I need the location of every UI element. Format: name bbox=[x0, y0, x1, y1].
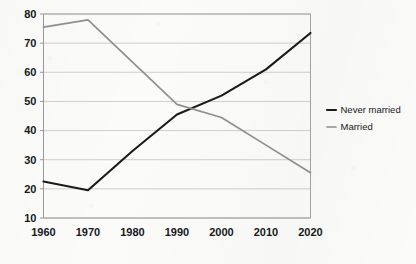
plot-frame bbox=[44, 14, 311, 218]
x-axis-tick-labels: 1960197019801990200020102020 bbox=[31, 226, 322, 238]
data-series-lines bbox=[44, 20, 311, 190]
series-line-never-married bbox=[44, 33, 311, 190]
y-tick-label-10: 10 bbox=[24, 212, 36, 224]
y-tick-label-70: 70 bbox=[24, 37, 36, 49]
y-tick-label-80: 80 bbox=[24, 8, 36, 20]
x-tick-label-1990: 1990 bbox=[165, 226, 189, 238]
y-tick-label-30: 30 bbox=[24, 154, 36, 166]
x-tick-label-2020: 2020 bbox=[298, 226, 322, 238]
legend-label-married[interactable]: Married bbox=[341, 121, 373, 132]
x-tick-label-2000: 2000 bbox=[209, 226, 233, 238]
y-axis-tick-labels: 1020304050607080 bbox=[24, 8, 43, 224]
y-tick-label-60: 60 bbox=[24, 66, 36, 78]
x-tick-label-1970: 1970 bbox=[76, 226, 100, 238]
y-tick-label-50: 50 bbox=[24, 95, 36, 107]
y-tick-label-20: 20 bbox=[24, 183, 36, 195]
chart-legend: Never marriedMarried bbox=[327, 104, 401, 132]
line-chart-figure: 1020304050607080 19601970198019902000201… bbox=[0, 0, 416, 264]
gridlines bbox=[44, 14, 311, 218]
x-tick-label-1960: 1960 bbox=[31, 226, 55, 238]
legend-label-never-married[interactable]: Never married bbox=[341, 104, 401, 115]
x-tick-label-1980: 1980 bbox=[120, 226, 144, 238]
chart-canvas: 1020304050607080 19601970198019902000201… bbox=[0, 0, 416, 264]
x-tick-label-2010: 2010 bbox=[254, 226, 278, 238]
y-tick-label-40: 40 bbox=[24, 124, 36, 136]
